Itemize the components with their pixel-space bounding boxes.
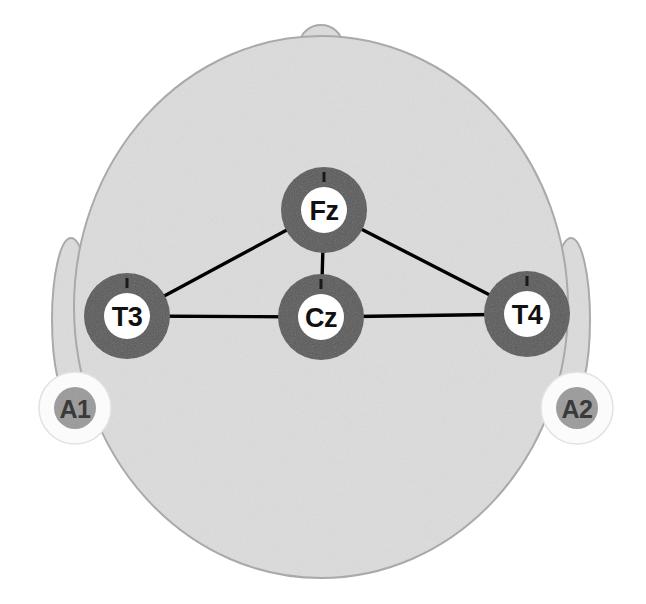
eeg-diagram-canvas: Fz Cz T3 T4 A1: [0, 0, 646, 604]
electrode-t3-label: T3: [112, 302, 143, 332]
reference-a2-label: A2: [562, 395, 593, 423]
electrode-fz-label: Fz: [310, 196, 339, 226]
eeg-head-diagram: Fz Cz T3 T4 A1: [0, 0, 646, 604]
reference-a1-label: A1: [60, 395, 92, 423]
electrode-fz[interactable]: Fz: [281, 167, 367, 253]
reference-electrode-a2[interactable]: A2: [541, 372, 613, 444]
electrode-t4-label: T4: [512, 300, 543, 330]
reference-electrode-a1[interactable]: A1: [39, 372, 111, 444]
electrode-cz[interactable]: Cz: [278, 274, 364, 360]
electrode-t4[interactable]: T4: [484, 271, 570, 357]
electrode-cz-label: Cz: [305, 303, 337, 333]
electrode-t3[interactable]: T3: [84, 273, 170, 359]
